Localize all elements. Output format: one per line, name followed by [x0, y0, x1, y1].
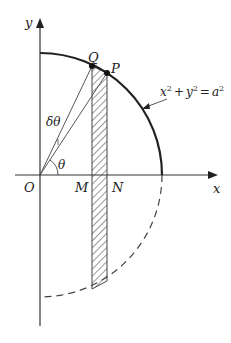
- delta-theta-label: δθ: [46, 115, 61, 129]
- point-q-label: Q: [88, 50, 99, 65]
- point-n-label: N: [111, 180, 124, 195]
- y-axis-arrow-icon: [36, 18, 44, 28]
- equation-pointer-arrow-icon: [142, 103, 150, 109]
- theta-arc: [50, 160, 58, 175]
- theta-label: θ: [58, 158, 66, 172]
- point-p: [104, 70, 110, 76]
- circle-equation: x2+y2=a2: [160, 84, 224, 99]
- y-axis-label: y: [24, 15, 33, 30]
- x-axis-label: x: [213, 181, 221, 196]
- point-m-label: M: [74, 180, 89, 195]
- hatched-strip: [92, 66, 107, 289]
- origin-label: O: [24, 180, 35, 195]
- circle-strip-diagram: y x O M N Q P θ δθ x2+y2=a2: [0, 0, 231, 343]
- x-axis-arrow-icon: [208, 171, 218, 179]
- point-p-label: P: [110, 61, 120, 76]
